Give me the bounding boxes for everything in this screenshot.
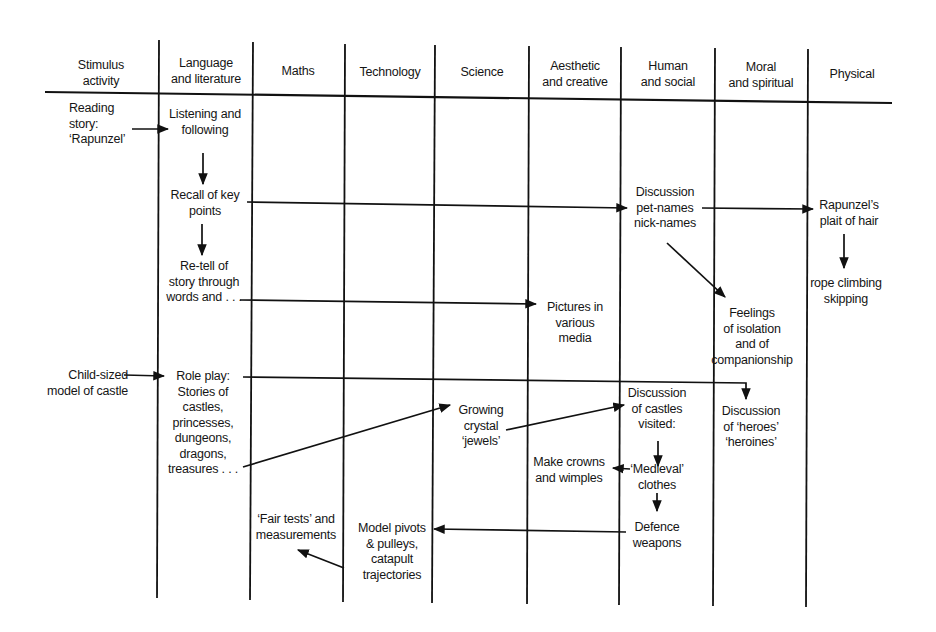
node-pivots: Model pivots & pulleys, catapult traject… [358, 521, 426, 583]
column-header-technology: Technology [359, 64, 420, 80]
node-castle-model: Child-sized model of castle [47, 368, 128, 399]
column-header-aesthetic: Aesthetic and creative [542, 58, 608, 90]
diagram-lines [0, 0, 936, 632]
node-listening: Listening and following [169, 107, 241, 138]
column-divider [432, 45, 435, 603]
node-castles-visited: Discussion of castles visited: [628, 386, 686, 433]
node-medieval: ‘Medieval’ clothes [630, 462, 684, 493]
arrow-roleplay-to-crystals [243, 405, 450, 467]
node-recall: Recall of key points [171, 188, 240, 219]
node-roleplay: Role play: Stories of castles, princesse… [168, 369, 238, 478]
column-header-human: Human and social [641, 58, 695, 90]
arrow-medieval-to-crowns [613, 468, 630, 469]
column-header-science: Science [460, 64, 503, 80]
column-header-maths: Maths [281, 63, 314, 79]
node-defence: Defence weapons [633, 520, 682, 551]
column-divider [527, 46, 529, 604]
column-header-moral: Moral and spiritual [729, 59, 794, 91]
column-header-stimulus: Stimulus activity [78, 57, 124, 89]
column-divider [250, 42, 253, 600]
node-reading-story: Reading story: ‘Rapunzel’ [69, 101, 125, 148]
arrow-discussion-to-plait [702, 208, 813, 209]
arrow-crystals-to-castles [506, 405, 624, 430]
curriculum-flow-diagram: Stimulus activity Language and literatur… [0, 0, 936, 632]
arrow-discussion-to-feelings [667, 243, 725, 297]
column-divider [619, 47, 621, 605]
node-fair-tests: ‘Fair tests’ and measurements [256, 512, 336, 543]
node-crowns: Make crowns and wimples [533, 455, 604, 486]
node-discussion-names: Discussion pet-names nick-names [634, 185, 696, 232]
column-header-physical: Physical [830, 66, 875, 82]
arrow-castle-to-roleplay [124, 375, 164, 376]
node-feelings: Feelings of isolation and of companionsh… [711, 306, 792, 368]
arrow-defence-to-pivots [434, 529, 626, 532]
arrow-recall-to-discussion [247, 202, 627, 208]
column-divider [343, 44, 345, 602]
column-divider [806, 49, 808, 607]
arrow-retell-to-pictures [240, 300, 536, 304]
column-header-language: Language and literature [171, 55, 241, 87]
node-crystals: Growing crystal ‘jewels’ [458, 403, 503, 450]
node-heroes: Discussion of ‘heroes’ ‘heroines’ [722, 404, 780, 451]
arrow-pivots-to-fair-tests [298, 550, 344, 568]
header-divider [45, 92, 892, 103]
node-pictures: Pictures in various media [547, 300, 603, 347]
column-divider [157, 40, 159, 598]
node-plait: Rapunzel’s plait of hair [819, 198, 879, 229]
node-retell: Re-tell of story through words and . . . [166, 259, 242, 306]
node-rope: rope climbing skipping [810, 276, 882, 307]
